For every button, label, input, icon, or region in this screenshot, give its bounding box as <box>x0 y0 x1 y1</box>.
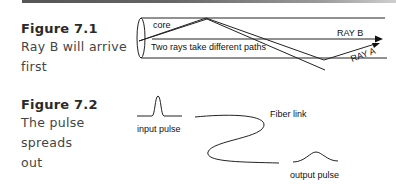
fiber-link-curve <box>195 115 279 163</box>
input-pulse-waveform <box>137 96 182 116</box>
fiber-link-label: Fiber link <box>270 109 307 119</box>
figures-canvas: core Two rays take different paths RAY B… <box>0 0 396 184</box>
input-pulse-label: input pulse <box>137 124 181 134</box>
core-label: core <box>153 20 171 30</box>
ray-b-arrowhead <box>375 36 383 43</box>
fiber-end-ellipse <box>137 18 145 58</box>
diagram-description: Two rays take different paths <box>151 42 266 52</box>
ray-a-label: RAY A <box>349 46 377 64</box>
ray-b-label: RAY B <box>337 28 363 38</box>
output-pulse-waveform <box>293 152 338 162</box>
output-pulse-label: output pulse <box>290 170 339 180</box>
